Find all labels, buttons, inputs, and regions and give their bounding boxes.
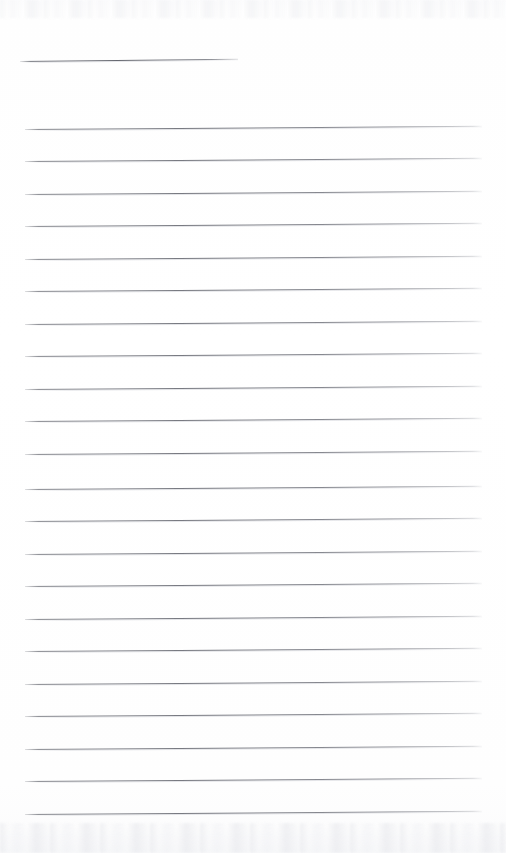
body-rule-8	[25, 353, 482, 357]
body-rule-13	[25, 518, 482, 522]
body-rule-1	[25, 126, 482, 130]
ruled-lines-layer	[0, 0, 506, 853]
body-rule-6	[25, 288, 482, 292]
body-rule-10	[25, 418, 482, 422]
scanned-page	[0, 0, 506, 853]
body-rule-2	[25, 158, 482, 162]
body-rule-9	[25, 386, 482, 390]
body-rule-11	[25, 451, 482, 455]
body-rule-15	[25, 583, 482, 587]
body-rule-22	[25, 811, 482, 815]
body-rule-18	[25, 681, 482, 685]
body-rule-19	[25, 713, 482, 717]
body-rule-20	[25, 746, 482, 750]
header-rule	[20, 59, 238, 62]
body-rule-12	[25, 486, 482, 490]
body-rule-5	[25, 256, 482, 260]
scan-noise-bottom-edge	[0, 823, 506, 853]
body-rule-21	[25, 778, 482, 782]
body-rule-17	[25, 648, 482, 652]
body-rule-14	[25, 551, 482, 555]
body-rule-7	[25, 321, 482, 325]
body-rule-3	[25, 191, 482, 195]
body-rule-16	[25, 616, 482, 620]
body-rule-4	[25, 223, 482, 227]
